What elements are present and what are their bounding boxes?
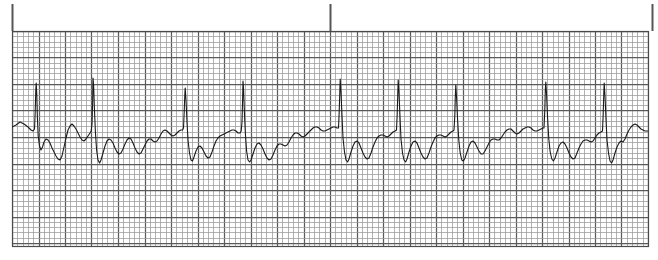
ecg-rhythm-strip: ECG Rhythm Strip 25 mm/s 10 mm/mV atrial…	[0, 0, 658, 260]
ecg-chart-canvas	[0, 0, 658, 260]
